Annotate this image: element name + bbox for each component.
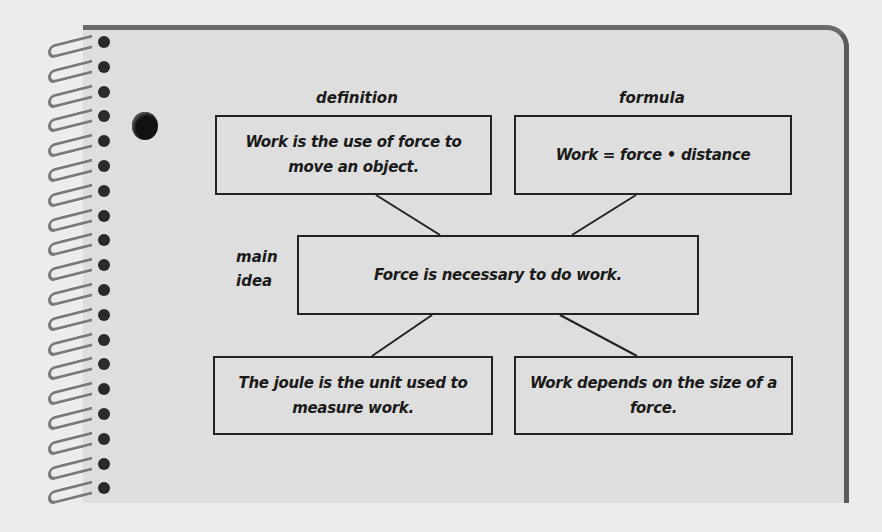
connector-main-unit [372, 315, 432, 356]
formula-box: Work = force • distance [514, 115, 792, 195]
connector-formula-main [572, 195, 636, 235]
formula-label: formula [619, 86, 685, 110]
main-idea-box: Force is necessary to do work. [297, 235, 699, 315]
detail-box: Work depends on the size of a force. [514, 356, 793, 435]
main-idea-label-line1: main [236, 245, 278, 269]
connector-main-detail [560, 315, 637, 356]
definition-box: Work is the use of force to move an obje… [215, 115, 492, 195]
main-idea-label-line2: idea [236, 269, 272, 293]
unit-box: The joule is the unit used to measure wo… [213, 356, 493, 435]
connector-definition-main [376, 195, 440, 235]
definition-label: definition [316, 86, 398, 110]
